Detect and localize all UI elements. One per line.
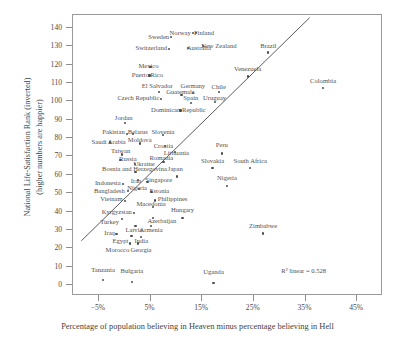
regression-line	[81, 18, 309, 241]
y-axis-tick-label: 10	[40, 262, 62, 271]
scatter-plot-figure: National Life-Satisfaction Rank (inverte…	[0, 0, 395, 343]
y-axis-tick-label: 90	[40, 115, 62, 124]
y-axis-tick-label: 120	[40, 60, 62, 69]
x-axis-tick	[150, 295, 151, 301]
y-axis-tick-label: 70	[40, 151, 62, 160]
y-axis-tick-label: 140	[40, 23, 62, 32]
x-axis-tick-label: 45%	[336, 303, 376, 312]
y-axis-tick-label: 60	[40, 170, 62, 179]
x-axis-tick	[356, 295, 357, 301]
y-axis-tick-label: 110	[40, 78, 62, 87]
x-axis-title: Percentage of population believing in He…	[0, 322, 395, 331]
x-axis-tick-label: 35%	[285, 303, 325, 312]
x-axis-tick-label: 15%	[181, 303, 221, 312]
x-axis-tick-label: 5%	[130, 303, 170, 312]
y-axis-title: National Life-Satisfaction Rank (inverte…	[22, 17, 46, 277]
y-axis-tick-label: 130	[40, 41, 62, 50]
y-axis-tick-label: 20	[40, 243, 62, 252]
r-squared-annotation: R² linear = 0.528	[281, 267, 326, 274]
y-axis-tick-label: 50	[40, 188, 62, 197]
regression-line-svg	[72, 14, 382, 295]
y-axis-tick-label: 80	[40, 133, 62, 142]
x-axis-tick-label: −5%	[78, 303, 118, 312]
y-axis-tick-label: 30	[40, 225, 62, 234]
x-axis-tick	[201, 295, 202, 301]
y-axis-tick-label: 0	[40, 280, 62, 289]
x-axis-tick	[253, 295, 254, 301]
x-axis-tick-label: 25%	[233, 303, 273, 312]
x-axis-tick	[98, 295, 99, 301]
y-axis-tick-label: 40	[40, 207, 62, 216]
x-axis-tick	[305, 295, 306, 301]
regression-line-layer	[72, 14, 382, 295]
y-axis-tick-label: 100	[40, 96, 62, 105]
